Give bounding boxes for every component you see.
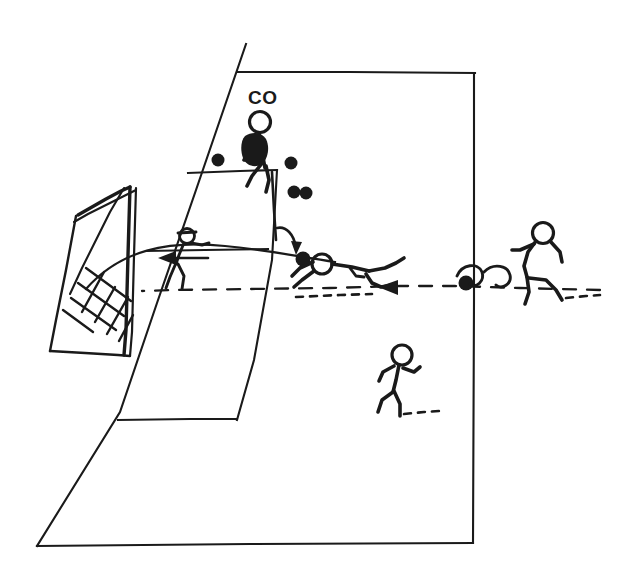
shooter-right	[457, 223, 600, 305]
recovery-arrow-head	[158, 251, 176, 265]
ball	[212, 154, 225, 167]
ball	[288, 186, 301, 199]
ground-dots-center	[296, 294, 372, 297]
diagram-canvas: CO	[0, 0, 626, 585]
ball-motion-swirl-2	[484, 266, 510, 287]
runner-bottom	[378, 345, 440, 416]
post-keeper-leg-front	[178, 264, 184, 289]
runner-torso	[393, 365, 399, 392]
post-keeper-head	[180, 229, 195, 244]
shooter-leg-standing	[525, 277, 529, 304]
field-bottom-line	[37, 543, 473, 546]
field-top-line	[238, 72, 475, 73]
shot-path-arrow-head	[378, 280, 398, 295]
coach-leg-front	[266, 166, 269, 192]
shot-path-dashes	[142, 286, 600, 291]
coach-label: CO	[248, 87, 278, 108]
runner-leg-back	[378, 392, 393, 412]
coach-head	[250, 112, 271, 133]
runner-arm-front	[403, 367, 420, 372]
shooter-ground-dots	[566, 295, 600, 298]
field-right-sideline	[473, 73, 474, 543]
goalkeeper-diving	[292, 252, 404, 288]
goal-bottom-line	[50, 351, 130, 356]
runner-arm-back	[379, 366, 394, 381]
field-lines	[37, 44, 475, 546]
ball-kicked	[459, 276, 474, 291]
runner-leg-front	[394, 391, 400, 416]
post-keeper-arm	[191, 243, 209, 245]
post-keeper-cap	[178, 232, 196, 233]
field-left-touchline	[37, 44, 246, 546]
keeper-leg-upper	[369, 258, 404, 271]
ball	[300, 187, 313, 200]
serve-arrow	[277, 228, 302, 255]
goal-far-post	[50, 216, 76, 351]
penalty-area-right-line	[237, 170, 277, 420]
goal-area-bottom-line	[118, 419, 237, 420]
goal-net-mesh	[63, 268, 133, 341]
soccer-drill-diagram: CO	[0, 0, 626, 585]
recovery-arrow	[158, 251, 208, 265]
shooter-arm-back	[550, 241, 562, 262]
ball	[285, 157, 298, 170]
coach-figure	[241, 112, 276, 241]
goal-structure	[50, 187, 136, 356]
goal-crossbar-edge	[74, 190, 136, 222]
penalty-area-top-line	[188, 170, 277, 173]
runner-head	[392, 345, 412, 365]
runner-ground-dots	[404, 411, 440, 414]
